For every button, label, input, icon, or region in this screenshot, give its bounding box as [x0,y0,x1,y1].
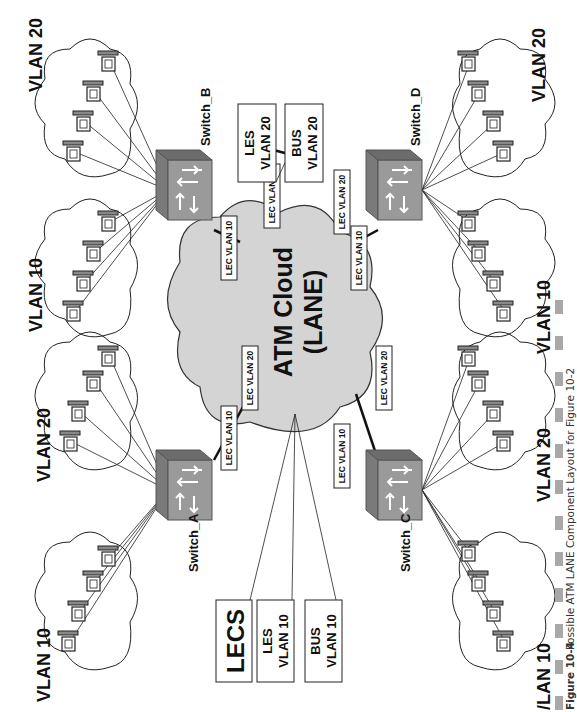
les-vlan10-l2: VLAN 10 [276,614,291,667]
diagram-canvas: ATM Cloud (LANE) Switch_A Switch_B Switc… [0,0,577,712]
switch-d-lec-vlan10: LEC VLAN 10 [354,231,364,286]
switch-c-icon [366,450,422,520]
switch-d-name: Switch_D [408,87,423,146]
switch-a-lec-vlan10: LEC VLAN 10 [224,411,234,466]
vlan-label-b10: VLAN 10 [26,258,46,332]
bus-vlan20-l1: BUS [289,129,304,157]
caption-bar [555,300,563,710]
les-vlan10-l1: LES [260,628,275,654]
switch-d-lec-vlan20: LEC VLAN 20 [337,175,347,230]
switch-d-icon [366,150,422,220]
switch-b-lec-vlan10: LEC VLAN 10 [224,221,234,276]
switch-a-icon [156,450,212,520]
atm-cloud-subtitle: (LANE) [299,270,327,355]
vlan-label-b20: VLAN 20 [26,18,46,92]
vlan-label-c20: VLAN 20 [534,428,554,502]
switch-c-lec-vlan10: LEC VLAN 10 [337,429,347,484]
vlan-label-a10: VLAN 10 [34,628,54,702]
atm-cloud-title: ATM Cloud [269,247,297,377]
switch-c-name: Switch_C [398,513,413,572]
vlan-label-d10: VLAN 10 [534,280,554,354]
lecs-label: LECS [222,609,249,673]
les-vlan20-l1: LES [242,130,257,156]
bus-vlan10-l1: BUS [308,627,323,655]
les-vlan20-l2: VLAN 20 [258,116,273,169]
bus-vlan20-l2: VLAN 20 [305,116,320,169]
vlan-label-a20: VLAN 20 [34,408,54,482]
figure-caption: Possible ATM LANE Component Layout for F… [564,368,576,650]
figure-number: Figure 10-4 [564,642,576,710]
switch-a-name: Switch_A [186,513,201,572]
switch-a-lec-vlan20: LEC VLAN 20 [245,351,255,406]
switch-b-name: Switch_B [198,87,213,146]
switch-c-lec-vlan20: LEC VLAN 20 [379,351,389,406]
vlan-label-d20: VLAN 20 [529,28,549,102]
switch-b-icon [156,150,212,220]
vlan-label-c10: /LAN 10 [534,643,554,710]
bus-vlan10-l2: VLAN 10 [324,614,339,667]
